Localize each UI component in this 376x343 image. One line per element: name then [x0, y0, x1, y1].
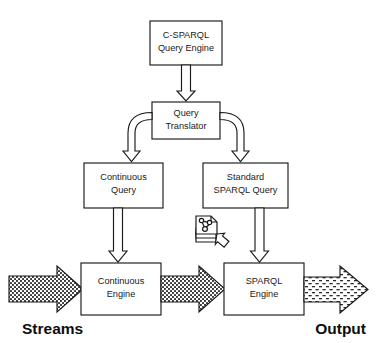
- diagram-root: C-SPARQL Query Engine Query Translator C…: [0, 0, 376, 343]
- rdf-graph-document-stack-icon: [196, 216, 217, 242]
- block-arrow-down-csparql-to-translator: [177, 65, 195, 101]
- sparql-engine-label-line2: Engine: [250, 289, 279, 299]
- architecture-diagram-canvas: C-SPARQL Query Engine Query Translator C…: [0, 0, 376, 343]
- continuous-query-label-line1: Continuous: [100, 172, 147, 182]
- query-translator-label-line1: Query: [173, 108, 198, 118]
- node-continuous-query[interactable]: Continuous Query: [84, 163, 163, 208]
- output-label: Output: [315, 320, 366, 337]
- output-arrow: [304, 266, 368, 313]
- node-standard-sparql-query[interactable]: Standard SPARQL Query: [203, 163, 288, 208]
- curved-block-arrow-right: [220, 113, 249, 162]
- standard-sparql-query-label-line1: Standard: [227, 172, 264, 182]
- intermediate-stream-arrow: [161, 266, 225, 312]
- block-arrow-down-standard-query: [251, 208, 269, 262]
- connector-continuous-query-to-engine: [109, 208, 127, 262]
- node-csparql-query-engine[interactable]: C-SPARQL Query Engine: [150, 21, 222, 65]
- node-query-translator[interactable]: Query Translator: [152, 102, 220, 139]
- standard-sparql-query-label-line2: SPARQL Query: [214, 185, 278, 195]
- connector-translator-to-standard-query: [220, 113, 249, 162]
- connector-csparql-to-translator: [177, 65, 195, 101]
- continuous-engine-label-line1: Continuous: [98, 276, 145, 286]
- connector-continuous-engine-to-sparql-engine: [161, 266, 225, 312]
- node-continuous-engine[interactable]: Continuous Engine: [81, 263, 161, 315]
- csparql-query-engine-label-line2: Query Engine: [158, 43, 214, 53]
- connector-streams-to-continuous-engine: [9, 266, 83, 312]
- continuous-query-label-line2: Query: [111, 185, 136, 195]
- query-translator-label-line2: Translator: [165, 121, 206, 131]
- csparql-query-engine-label-line1: C-SPARQL: [163, 30, 209, 40]
- streams-input-arrow: [9, 266, 83, 312]
- sparql-engine-label-line1: SPARQL: [246, 276, 283, 286]
- node-sparql-engine[interactable]: SPARQL Engine: [224, 263, 304, 315]
- block-arrow-down-continuous-query: [109, 208, 127, 262]
- rdf-graph-node-c: [203, 227, 208, 232]
- connector-sparql-engine-to-output: [304, 266, 368, 313]
- rdf-graph-node-b: [207, 220, 211, 224]
- continuous-engine-label-line2: Engine: [107, 289, 136, 299]
- rdf-graph-node-a: [199, 218, 203, 222]
- connector-standard-query-to-sparql-engine: [251, 208, 269, 262]
- connector-translator-to-continuous-query: [123, 113, 152, 162]
- streams-label: Streams: [22, 320, 83, 337]
- curved-block-arrow-left: [123, 113, 152, 162]
